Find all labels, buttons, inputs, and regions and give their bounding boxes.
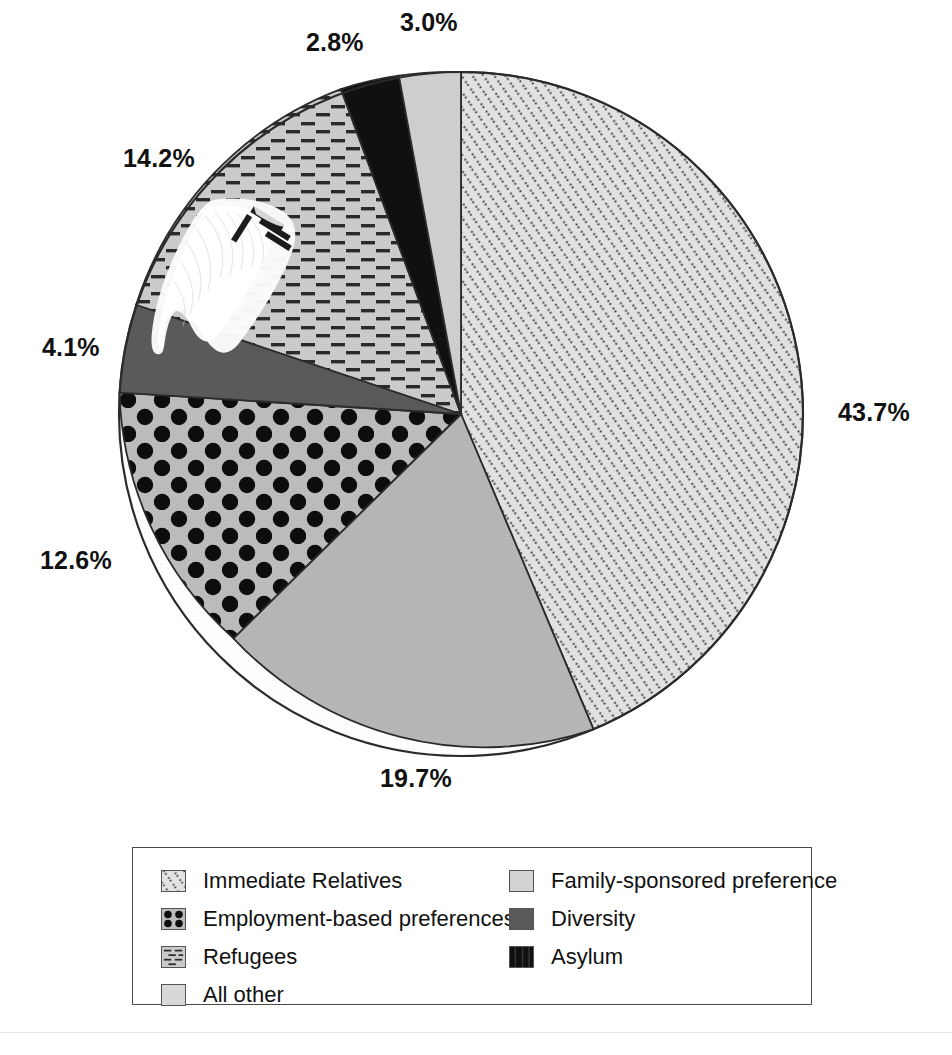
pie-value-label-all-other: 3.0% [400,8,458,37]
legend-label-all-other: All other [203,984,284,1006]
legend-label-diversity: Diversity [551,908,635,930]
legend-item-diversity[interactable]: Diversity [509,900,809,938]
pie-value-label-refugees: 14.2% [123,144,195,173]
legend-swatch-immediate-relatives-icon [161,870,186,892]
scan-edge-line [0,1032,952,1033]
pie-chart-figure: 43.7% 19.7% 12.6% 4.1% 14.2% 2.8% 3.0% [0,0,952,820]
pie-chart-canvas [0,0,952,820]
pie-value-label-employment-based-preferences: 12.6% [40,546,112,575]
legend-item-employment-based-preferences[interactable]: Employment-based preferences [161,900,501,938]
pie-value-label-immediate-relatives: 43.7% [838,398,910,427]
legend-label-employment-based-preferences: Employment-based preferences [203,908,515,930]
legend-swatch-refugees-icon [161,946,186,968]
legend: Immediate Relatives Employment-based pre… [132,847,812,1005]
legend-item-refugees[interactable]: Refugees [161,938,501,976]
legend-swatch-employment-based-preferences-icon [161,908,186,930]
legend-column-left: Immediate Relatives Employment-based pre… [161,862,501,1014]
paper-grain-overlay [119,72,803,756]
pie-value-label-family-sponsored-preference: 19.7% [380,764,452,793]
legend-swatch-asylum-icon [509,946,534,968]
legend-label-family-sponsored-preference: Family-sponsored preference [551,870,837,892]
legend-item-all-other[interactable]: All other [161,976,501,1014]
pie-value-label-diversity: 4.1% [42,333,100,362]
legend-item-immediate-relatives[interactable]: Immediate Relatives [161,862,501,900]
legend-item-family-sponsored-preference[interactable]: Family-sponsored preference [509,862,809,900]
legend-label-immediate-relatives: Immediate Relatives [203,870,402,892]
legend-label-refugees: Refugees [203,946,297,968]
legend-column-right: Family-sponsored preference Diversity As… [509,862,809,976]
legend-label-asylum: Asylum [551,946,623,968]
legend-swatch-family-sponsored-preference-icon [509,870,534,892]
legend-item-asylum[interactable]: Asylum [509,938,809,976]
legend-swatch-diversity-icon [509,908,534,930]
pie-value-label-asylum: 2.8% [306,28,364,57]
legend-swatch-all-other-icon [161,984,186,1006]
